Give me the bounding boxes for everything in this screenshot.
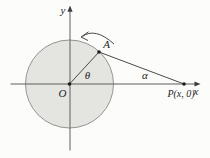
rotation-arrowhead [81,32,89,41]
point-p-dot [182,82,186,86]
point-a-dot [97,50,101,54]
figure-canvas: y x O A θ α P(x, 0) [0,0,210,158]
origin-label: O [59,87,67,99]
y-axis-label: y [60,4,66,16]
diagram-svg: y x O A θ α P(x, 0) [0,0,210,158]
alpha-label: α [142,69,148,81]
point-p-label: P(x, 0) [166,88,195,100]
theta-label: θ [85,69,91,81]
point-a-label: A [102,38,110,50]
origin-dot [68,82,72,86]
y-axis-arrowhead [67,6,72,12]
